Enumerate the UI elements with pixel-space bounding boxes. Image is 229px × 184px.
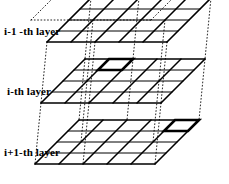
highlighted-cell xyxy=(98,59,133,70)
connector-line xyxy=(161,42,167,103)
connector-line xyxy=(199,59,205,120)
grid-column-line xyxy=(167,0,211,42)
connector-line xyxy=(127,59,133,120)
silhouette-edge xyxy=(31,0,75,20)
layer-label-middle: i-th layer xyxy=(7,86,51,97)
connector-line xyxy=(89,42,95,103)
highlighted-cell xyxy=(164,120,199,131)
layer-label-top: i-1 -th layer xyxy=(4,26,60,37)
layer-stack-diagram: i-1 -th layer i-th layer i+1-th layer xyxy=(0,0,229,184)
grid-column-line xyxy=(119,0,163,42)
layer-label-bottom: i+1-th layer xyxy=(4,147,60,158)
connector-line xyxy=(83,103,89,164)
connector-line xyxy=(205,0,211,59)
connector-line xyxy=(155,103,161,164)
grid-column-line xyxy=(71,0,115,42)
grid-column-line xyxy=(95,0,139,42)
